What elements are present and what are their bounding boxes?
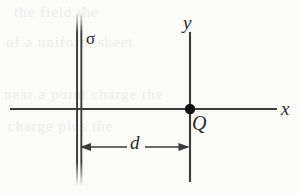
y-axis-label: y [183, 13, 191, 32]
point-charge-label: Q [192, 113, 206, 133]
charged-sheet [76, 12, 82, 186]
distance-label: d [130, 133, 140, 152]
diagram-canvas [0, 0, 299, 194]
physics-diagram: the field the of a uniform sheet near a … [0, 0, 299, 194]
arrowhead-right [179, 143, 190, 151]
x-axis-label: x [281, 99, 289, 118]
sheet-charge-density-label: σ [86, 30, 95, 47]
